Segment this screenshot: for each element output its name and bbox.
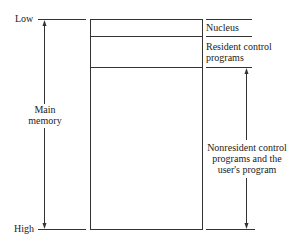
- arrowhead-down-icon: [43, 223, 47, 229]
- low-label: Low: [15, 13, 33, 24]
- arrowhead-up-icon: [245, 68, 249, 74]
- arrowhead-down-icon: [245, 223, 249, 229]
- arrowhead-up-icon: [43, 20, 47, 26]
- nucleus-label: Nucleus: [206, 22, 239, 33]
- high-label: High: [14, 223, 34, 234]
- main-memory-box: [91, 20, 203, 230]
- nonresident-label: Nonresident control programs and the use…: [196, 142, 298, 175]
- main-memory-label: Main memory: [24, 104, 66, 126]
- resident-control-label: Resident control programs: [206, 41, 272, 63]
